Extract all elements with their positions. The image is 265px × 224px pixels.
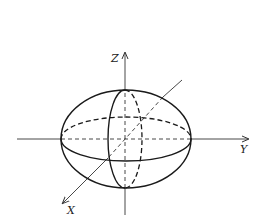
ellipsoid-diagram: Z Y X (0, 0, 265, 224)
y-axis-label: Y (240, 143, 249, 156)
equator-front-arc (61, 139, 191, 161)
x-axis-label: X (66, 204, 76, 217)
equator-back-arc (61, 117, 191, 139)
z-axis-label: Z (110, 52, 119, 65)
